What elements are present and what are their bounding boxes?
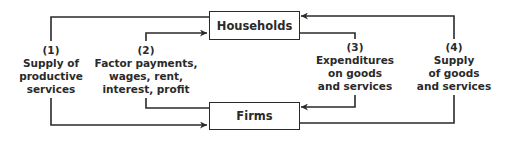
flow-4-label: (4) Supply of goods and services <box>417 41 491 93</box>
firms-label: Firms <box>236 109 272 123</box>
flow-3-line-2: on goods <box>316 67 394 80</box>
firms-node: Firms <box>209 102 300 130</box>
flow-3-line-3: and services <box>316 80 394 93</box>
flow-1-label: (1) Supply of productive services <box>19 44 83 96</box>
flow-2-line-2: wages, rent, <box>95 70 198 83</box>
flow-3-number: (3) <box>316 41 394 54</box>
flow-4-line-3: and services <box>417 80 491 93</box>
flow-1-line-2: productive <box>19 70 83 83</box>
flow-4-line-1: Supply <box>417 54 491 67</box>
flow-1-number: (1) <box>19 44 83 57</box>
households-node: Households <box>209 11 300 40</box>
flow-3-label: (3) Expenditures on goods and services <box>316 41 394 93</box>
flow-1-line-3: services <box>19 83 83 96</box>
flow-1-line-1: Supply of <box>19 57 83 70</box>
flow-3-line-1: Expenditures <box>316 54 394 67</box>
flow-2-label: (2) Factor payments, wages, rent, intere… <box>95 44 198 96</box>
flow-2-number: (2) <box>95 44 198 57</box>
flow-4-number: (4) <box>417 41 491 54</box>
households-label: Households <box>217 19 292 33</box>
flow-2-line-3: interest, profit <box>95 83 198 96</box>
flow-2-line-1: Factor payments, <box>95 57 198 70</box>
flow-4-line-2: of goods <box>417 67 491 80</box>
